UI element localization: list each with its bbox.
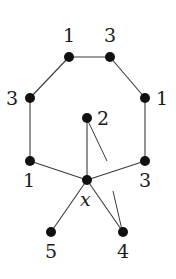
- vertex-n5: [46, 227, 56, 237]
- vertex-mr: [140, 93, 150, 103]
- vertex-bl: [25, 156, 35, 166]
- vertex-label-n5: 5: [45, 240, 57, 262]
- vertex-label-c2: 2: [97, 107, 109, 129]
- vertex-label-bl: 1: [23, 169, 35, 191]
- partial-edges: [88, 121, 122, 230]
- vertex-n4: [118, 227, 128, 237]
- vertex-ml: [25, 93, 35, 103]
- edge-tl-ml: [30, 57, 69, 98]
- vertex-tr: [105, 52, 115, 62]
- edge-bl-x: [30, 161, 87, 180]
- vertex-label-tl: 1: [63, 24, 75, 46]
- edge-br-x: [87, 161, 145, 180]
- vertex-x: [82, 175, 92, 185]
- vertex-label-ml: 3: [6, 87, 18, 109]
- graph-diagram: 1331213x54: [0, 0, 176, 279]
- vertex-tl: [64, 52, 74, 62]
- vertex-label-mr: 1: [156, 87, 168, 109]
- edge-x-n4: [87, 180, 123, 232]
- vertex-br: [140, 156, 150, 166]
- vertex-label-br: 3: [139, 169, 151, 191]
- edge-tr-mr: [110, 57, 145, 98]
- vertex-label-x: x: [80, 188, 91, 210]
- vertex-label-n4: 4: [117, 240, 129, 262]
- vertex-c2: [82, 113, 92, 123]
- vertex-label-tr: 3: [104, 24, 116, 46]
